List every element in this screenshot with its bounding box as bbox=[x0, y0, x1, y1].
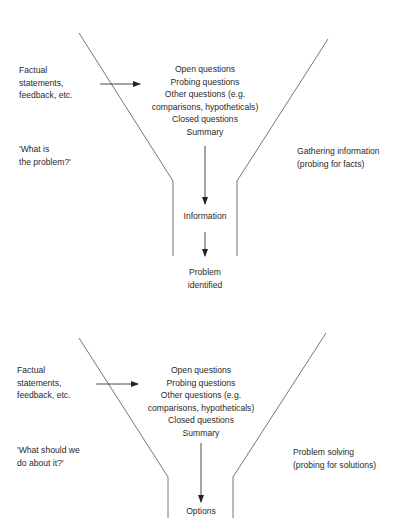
bottom-input-label: Factual statements, feedback, etc. bbox=[17, 364, 71, 402]
top-question-stages: Open questions Probing questions Other q… bbox=[152, 63, 259, 139]
bottom-middle-output: Options bbox=[186, 505, 216, 518]
top-middle-output: Information bbox=[184, 210, 227, 223]
bottom-side-label: Problem solving (probing for solutions) bbox=[293, 446, 376, 471]
top-side-label: Gathering information (probing for facts… bbox=[297, 145, 380, 170]
top-question-prompt: 'What is the problem?' bbox=[19, 143, 71, 168]
bottom-question-stages: Open questions Probing questions Other q… bbox=[148, 364, 255, 440]
bottom-question-prompt: 'What should we do about it?' bbox=[17, 444, 80, 469]
top-input-label: Factual statements, feedback, etc. bbox=[19, 64, 73, 102]
top-final-output: Problem identified bbox=[188, 266, 222, 291]
